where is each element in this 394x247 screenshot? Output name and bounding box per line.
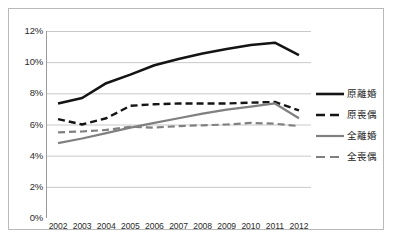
legend-item-4[interactable]: 全喪偶 <box>315 148 387 166</box>
legend-key-swatch <box>315 109 345 121</box>
y-axis-tick-label: 6% <box>11 120 43 130</box>
legend-item-2[interactable]: 原喪偶 <box>315 106 387 124</box>
x-axis-tick-label: 2010 <box>241 222 260 231</box>
x-axis-tick-label: 2012 <box>290 222 309 231</box>
series-line-3 <box>58 103 299 143</box>
figure-caption <box>70 236 330 246</box>
x-axis-tick-label: 2005 <box>121 222 140 231</box>
chart-plot-area: 12%10%8%6%4%2%0% 20022003200420052006200… <box>8 8 384 230</box>
y-axis-labels: 12%10%8%6%4%2%0% <box>9 9 43 231</box>
plot-svg <box>46 15 311 218</box>
x-axis-tick-label: 2011 <box>266 222 284 231</box>
x-axis-tick-label: 2003 <box>73 222 92 231</box>
legend-item-label: 原喪偶 <box>347 110 377 120</box>
legend-key-swatch <box>315 151 345 163</box>
legend-item-1[interactable]: 原離婚 <box>315 85 387 103</box>
legend-item-3[interactable]: 全離婚 <box>315 127 387 145</box>
x-axis-tick-label: 2007 <box>169 222 188 231</box>
series-line-1 <box>58 43 299 104</box>
x-axis-tick-label: 2009 <box>217 222 236 231</box>
y-axis-tick-label: 8% <box>11 88 43 98</box>
plot-region <box>46 15 311 218</box>
legend-key-swatch <box>315 88 345 100</box>
chart-figure: 12%10%8%6%4%2%0% 20022003200420052006200… <box>0 0 394 247</box>
chart-legend: 原離婚原喪偶全離婚全喪偶 <box>315 85 387 169</box>
legend-key-swatch <box>315 130 345 142</box>
y-axis-tick-label: 2% <box>11 182 43 192</box>
x-axis-tick-label: 2008 <box>193 222 212 231</box>
series-line-4 <box>58 123 299 132</box>
y-axis-tick-label: 10% <box>11 57 43 67</box>
legend-item-label: 原離婚 <box>347 89 377 99</box>
x-axis-tick-label: 2002 <box>49 222 68 231</box>
y-axis-tick-label: 0% <box>11 213 43 223</box>
legend-item-label: 全離婚 <box>347 131 377 141</box>
x-axis-tick-label: 2004 <box>97 222 116 231</box>
y-axis-tick-label: 4% <box>11 151 43 161</box>
x-axis-tick-label: 2006 <box>145 222 164 231</box>
y-axis-tick-label: 12% <box>11 26 43 36</box>
legend-item-label: 全喪偶 <box>347 152 377 162</box>
